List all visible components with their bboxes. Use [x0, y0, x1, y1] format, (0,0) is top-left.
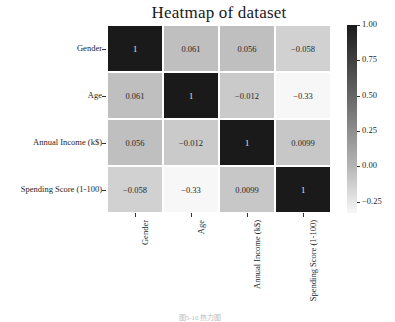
colorbar-tick-mark — [357, 166, 360, 167]
chart-title: Heatmap of dataset — [107, 3, 331, 23]
heatmap-cell: 0.061 — [107, 72, 163, 119]
y-tick-label: Annual Income (k$) — [33, 137, 102, 147]
x-tick-label: Spending Score (1-100) — [308, 220, 318, 301]
colorbar-tick-mark — [357, 25, 360, 26]
heatmap-cell: 1 — [219, 119, 275, 166]
heatmap-cell: 0.061 — [163, 25, 219, 72]
y-tick-mark — [102, 190, 106, 191]
x-tick-mark — [191, 213, 192, 217]
heatmap-cell: −0.33 — [275, 72, 331, 119]
x-tick-mark — [303, 213, 304, 217]
heatmap-grid: 10.0610.056−0.0580.0611−0.012−0.330.056−… — [107, 25, 331, 213]
heatmap-cell: 1 — [163, 72, 219, 119]
heatmap-cell: 0.056 — [219, 25, 275, 72]
heatmap-cell: 0.0099 — [219, 166, 275, 213]
heatmap-cell: −0.058 — [107, 166, 163, 213]
y-tick-mark — [102, 96, 106, 97]
y-tick-label: Gender — [77, 43, 102, 53]
x-tick-label: Gender — [140, 220, 150, 245]
y-tick-mark — [102, 143, 106, 144]
colorbar-tick-label: 0.50 — [362, 90, 377, 100]
y-tick-mark — [102, 49, 106, 50]
colorbar-tick-mark — [357, 202, 360, 203]
heatmap-cell: 0.0099 — [275, 119, 331, 166]
heatmap-cell: −0.012 — [219, 72, 275, 119]
heatmap-cell: 1 — [107, 25, 163, 72]
x-tick-label: Annual Income (k$) — [252, 220, 262, 289]
colorbar-tick-label: 0.25 — [362, 125, 377, 135]
heatmap-cell: 0.056 — [107, 119, 163, 166]
colorbar-tick-mark — [357, 96, 360, 97]
colorbar-tick-mark — [357, 131, 360, 132]
colorbar-tick-label: 0.00 — [362, 160, 377, 170]
y-tick-label: Spending Score (1-100) — [21, 184, 102, 194]
heatmap-cell: −0.33 — [163, 166, 219, 213]
heatmap-cell: −0.058 — [275, 25, 331, 72]
y-tick-label: Age — [88, 90, 102, 100]
colorbar — [347, 25, 357, 213]
x-tick-label: Age — [196, 220, 206, 234]
x-tick-mark — [135, 213, 136, 217]
colorbar-tick-label: 0.75 — [362, 54, 377, 64]
x-tick-mark — [247, 213, 248, 217]
colorbar-tick-mark — [357, 60, 360, 61]
heatmap-cell: 1 — [275, 166, 331, 213]
colorbar-tick-label: −0.25 — [362, 196, 382, 206]
figure-caption: 图5-10 热力图 — [150, 312, 250, 322]
heatmap-cell: −0.012 — [163, 119, 219, 166]
colorbar-tick-label: 1.00 — [362, 19, 377, 29]
